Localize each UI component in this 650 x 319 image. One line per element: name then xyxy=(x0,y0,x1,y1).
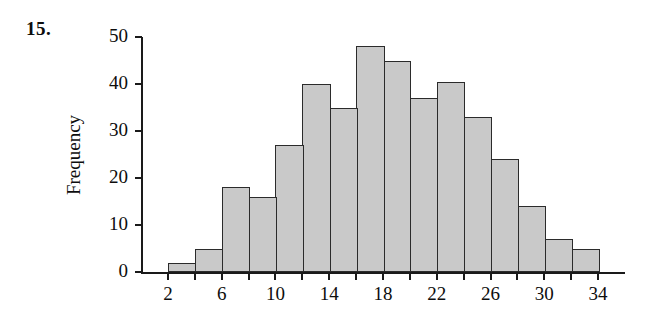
x-axis-tick xyxy=(194,272,196,280)
histogram-bar xyxy=(437,82,465,272)
y-axis-tick-label: 0 xyxy=(119,260,129,282)
histogram-bar xyxy=(544,239,572,272)
y-axis-tick-label: 30 xyxy=(109,119,128,141)
x-axis-tick xyxy=(490,272,492,280)
histogram-bar xyxy=(517,206,545,272)
x-axis-tick-label: 14 xyxy=(320,283,339,305)
y-axis-tick-label: 20 xyxy=(109,166,128,188)
histogram-figure: 15. Frequency 01020304050261014182226303… xyxy=(0,0,650,319)
x-axis-tick xyxy=(543,272,545,280)
x-axis-tick xyxy=(221,272,223,280)
histogram-bar xyxy=(249,197,277,272)
x-axis-tick xyxy=(516,272,518,280)
x-axis-tick xyxy=(167,272,169,280)
x-axis-tick-label: 2 xyxy=(163,283,173,305)
x-axis-tick-label: 26 xyxy=(481,283,500,305)
histogram-bar xyxy=(168,263,196,272)
y-axis-tick: 50 xyxy=(135,36,142,38)
y-axis-tick: 0 xyxy=(135,271,142,273)
histogram-bar xyxy=(464,117,492,272)
y-axis-tick: 10 xyxy=(135,224,142,226)
histogram-bar xyxy=(302,84,330,272)
x-axis-tick xyxy=(436,272,438,280)
y-axis-tick-label: 50 xyxy=(109,25,128,47)
x-axis-tick xyxy=(355,272,357,280)
histogram-bar xyxy=(410,98,438,272)
y-axis-title: Frequency xyxy=(62,37,86,272)
histogram-bar xyxy=(491,159,519,272)
y-axis-title-text: Frequency xyxy=(63,114,85,194)
x-axis-tick xyxy=(409,272,411,280)
y-axis-tick-label: 10 xyxy=(109,213,128,235)
x-axis-tick xyxy=(328,272,330,280)
x-axis-tick-label: 10 xyxy=(266,283,285,305)
y-axis-tick: 20 xyxy=(135,177,142,179)
x-axis-tick-label: 6 xyxy=(217,283,227,305)
histogram-bar xyxy=(571,249,599,273)
histogram-bar xyxy=(383,61,411,273)
y-axis-tick: 30 xyxy=(135,130,142,132)
x-axis-tick-label: 30 xyxy=(535,283,554,305)
bars-layer xyxy=(141,37,625,272)
plot-area: 010203040502610141822263034 xyxy=(141,37,625,272)
histogram-bar xyxy=(195,249,223,273)
x-axis-tick xyxy=(382,272,384,280)
x-axis-tick-label: 18 xyxy=(374,283,393,305)
x-axis-tick-label: 34 xyxy=(589,283,608,305)
x-axis-tick xyxy=(570,272,572,280)
x-axis-tick-label: 22 xyxy=(427,283,446,305)
x-axis-tick xyxy=(274,272,276,280)
histogram-bar xyxy=(222,187,250,272)
exercise-number-label: 15. xyxy=(26,18,51,40)
x-axis-tick xyxy=(301,272,303,280)
y-axis-tick: 40 xyxy=(135,83,142,85)
histogram-bar xyxy=(329,108,357,273)
x-axis-tick xyxy=(597,272,599,280)
y-axis-tick-label: 40 xyxy=(109,72,128,94)
histogram-bar xyxy=(356,46,384,272)
histogram-bar xyxy=(275,145,303,272)
x-axis-tick xyxy=(248,272,250,280)
x-axis-tick xyxy=(463,272,465,280)
